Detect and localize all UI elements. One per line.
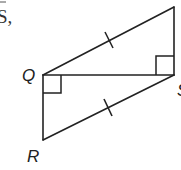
right-angle-mark-q bbox=[43, 75, 61, 93]
label-r: R bbox=[27, 147, 39, 166]
fragment-text: S, bbox=[0, 6, 12, 27]
label-q: Q bbox=[22, 66, 35, 85]
label-s: S bbox=[177, 81, 181, 100]
right-angle-mark-s bbox=[156, 56, 174, 75]
tick-mark-rs bbox=[104, 99, 112, 116]
segment-qt bbox=[43, 7, 174, 75]
geometry-diagram: S, Q R S bbox=[0, 0, 181, 170]
